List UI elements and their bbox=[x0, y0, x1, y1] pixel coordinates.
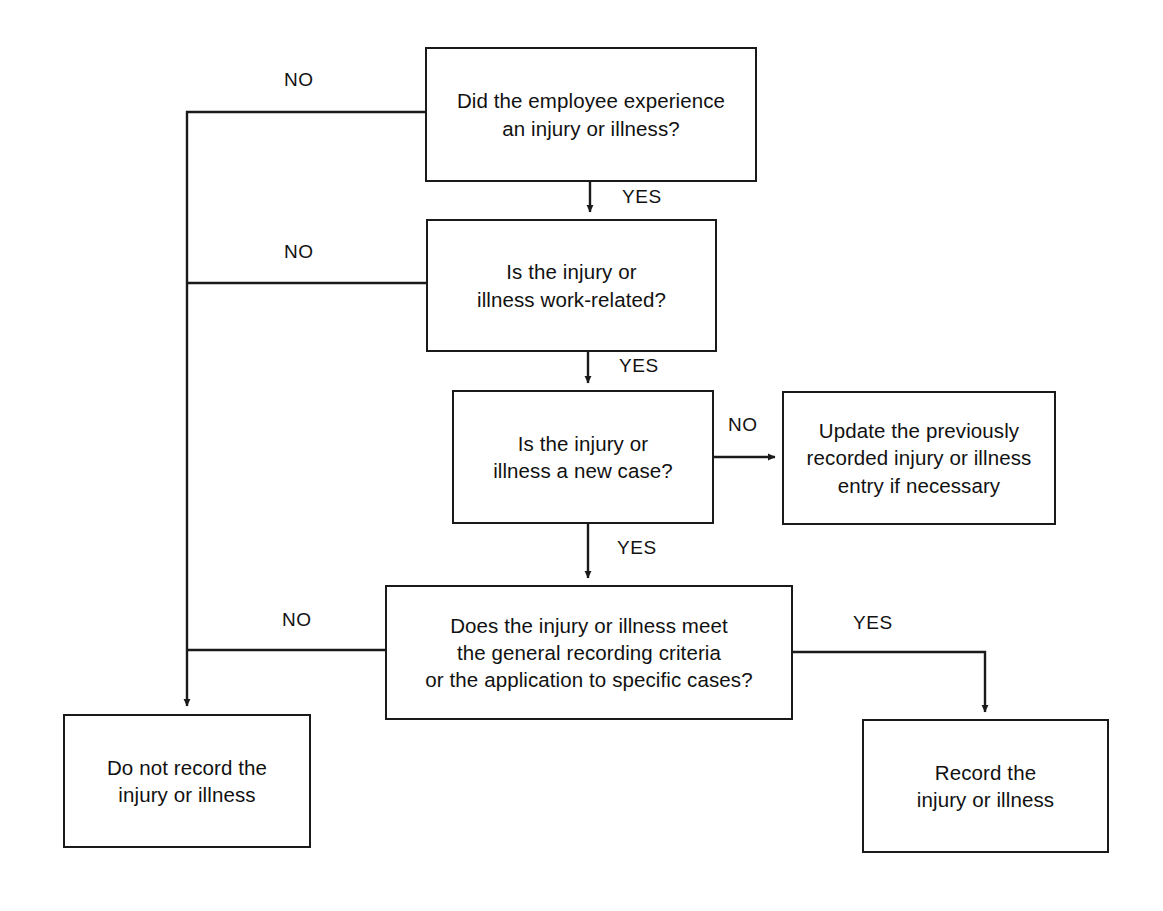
node-label: Record the injury or illness bbox=[911, 759, 1060, 813]
node-label: Does the injury or illness meet the gene… bbox=[419, 612, 758, 693]
node-record[interactable]: Record the injury or illness bbox=[862, 719, 1109, 853]
node-update-previous[interactable]: Update the previously recorded injury or… bbox=[782, 391, 1056, 525]
node-did-employee-experience[interactable]: Did the employee experience an injury or… bbox=[425, 47, 757, 182]
edge-label-no-4: NO bbox=[282, 609, 312, 631]
node-work-related[interactable]: Is the injury or illness work-related? bbox=[426, 219, 717, 352]
node-label: Update the previously recorded injury or… bbox=[801, 417, 1038, 498]
edge-label-yes-2: YES bbox=[619, 355, 659, 377]
edge-label-yes-1: YES bbox=[622, 186, 662, 208]
node-label: Is the injury or illness work-related? bbox=[471, 258, 672, 312]
node-label: Did the employee experience an injury or… bbox=[451, 87, 731, 141]
edge-label-yes-4: YES bbox=[853, 612, 893, 634]
edge-label-no-3: NO bbox=[728, 414, 758, 436]
connector-yes-4 bbox=[793, 652, 985, 712]
node-recording-criteria[interactable]: Does the injury or illness meet the gene… bbox=[385, 585, 793, 720]
node-label: Is the injury or illness a new case? bbox=[487, 430, 679, 484]
edge-label-yes-3: YES bbox=[617, 537, 657, 559]
node-label: Do not record the injury or illness bbox=[101, 754, 273, 808]
node-new-case[interactable]: Is the injury or illness a new case? bbox=[452, 390, 714, 524]
flowchart-canvas: Did the employee experience an injury or… bbox=[0, 0, 1163, 911]
edge-label-no-2: NO bbox=[284, 241, 314, 263]
edge-label-no-1: NO bbox=[284, 69, 314, 91]
node-do-not-record[interactable]: Do not record the injury or illness bbox=[63, 714, 311, 848]
